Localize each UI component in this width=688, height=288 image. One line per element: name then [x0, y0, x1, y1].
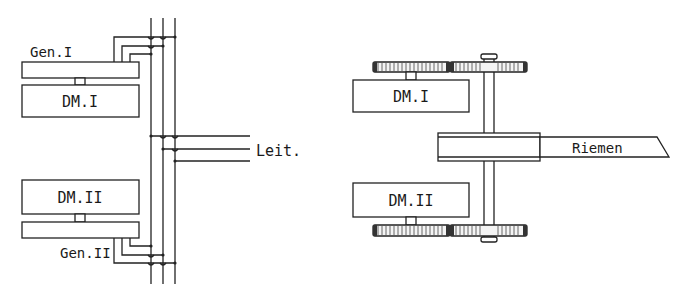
gen2-coupling [75, 214, 85, 222]
gen1-box [22, 62, 139, 78]
gen2-box [22, 222, 139, 238]
gen1-coupling [75, 78, 85, 85]
gen2-label: Gen.II [60, 245, 111, 261]
shaft-cap-top [481, 54, 497, 59]
shaft-cap-bottom [481, 237, 497, 242]
dm2-right-label: DM.II [388, 192, 433, 210]
line-outputs [149, 134, 250, 162]
diagram-canvas: Gen.I DM.I DM.II Gen.II [0, 0, 688, 288]
top-pulleys [373, 62, 527, 72]
dm1-label: DM.I [62, 93, 98, 111]
dm2-right-coupling [406, 217, 416, 225]
right-belt-drive: DM.I Riemen DM.II [353, 54, 669, 242]
bottom-pulleys [373, 225, 527, 236]
left-schematic: Gen.I DM.I DM.II Gen.II [22, 18, 301, 284]
bus-lines [151, 18, 175, 284]
gen1-label: Gen.I [30, 44, 72, 60]
dm1-right-label: DM.I [393, 88, 429, 106]
belt-label: Riemen [572, 140, 623, 156]
gen1-leads [114, 35, 177, 62]
dm1-right-coupling [406, 72, 416, 80]
dm2-label: DM.II [57, 189, 102, 207]
gen2-leads [114, 238, 177, 265]
belt-pulley [438, 133, 540, 161]
leitung-label: Leit. [256, 142, 301, 160]
